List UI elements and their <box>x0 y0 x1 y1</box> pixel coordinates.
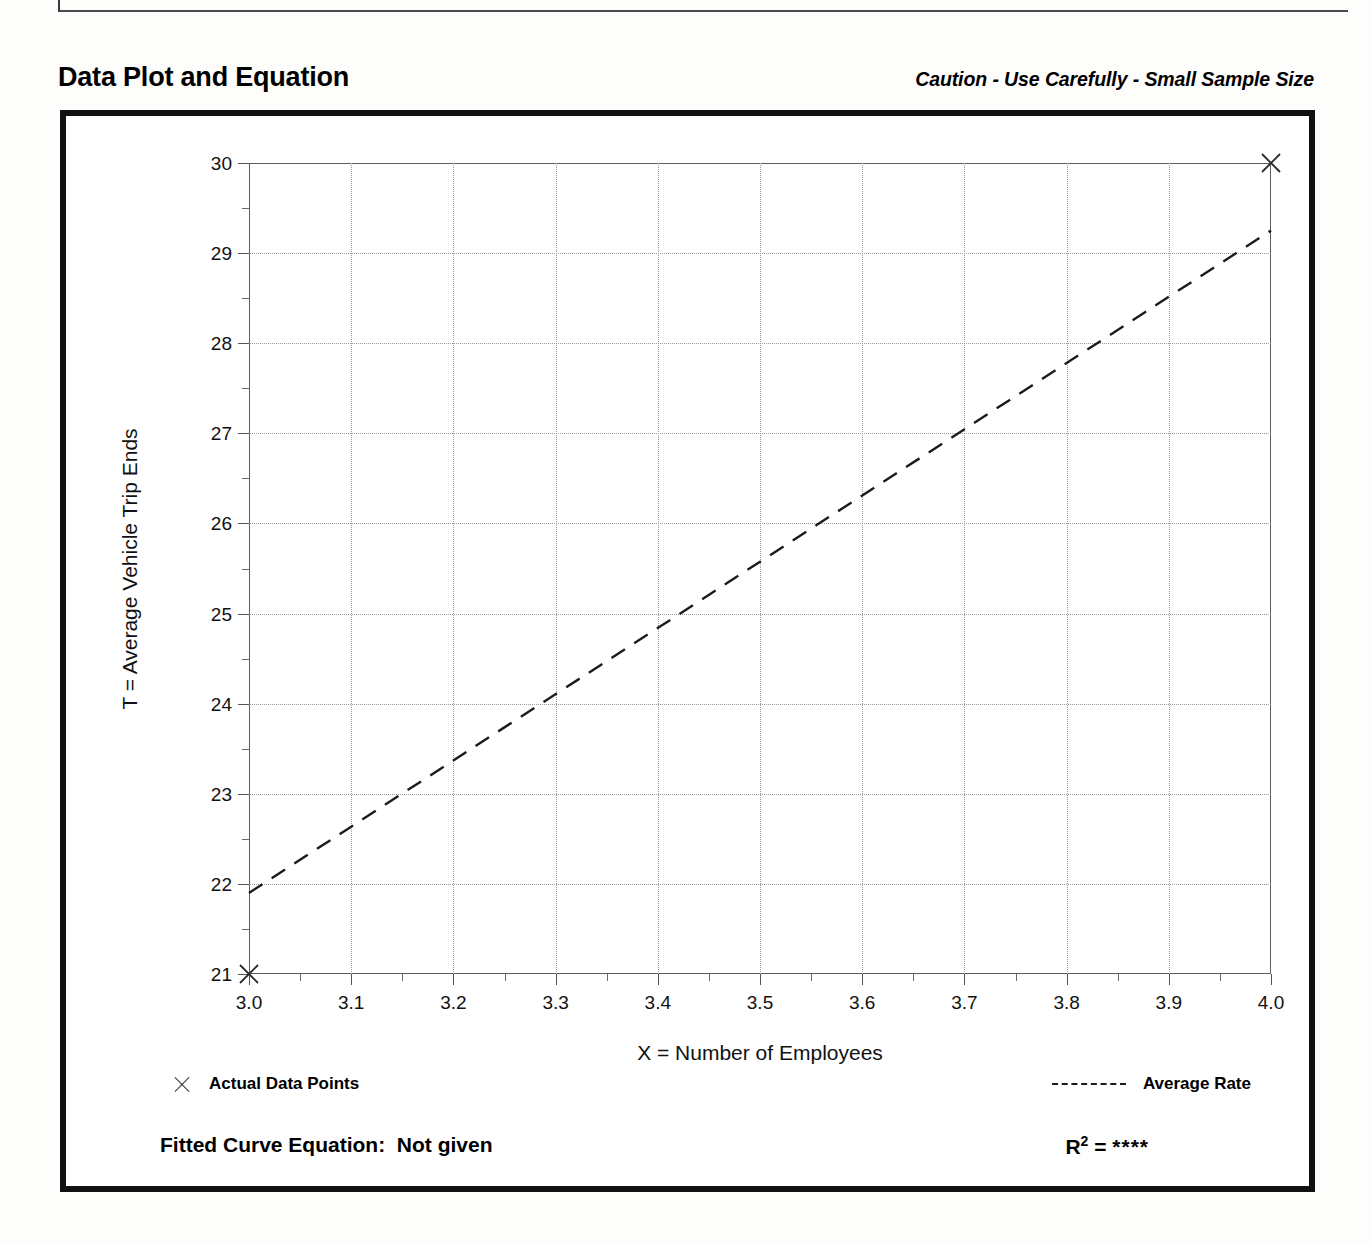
r-squared-exponent: 2 <box>1081 1133 1089 1149</box>
x-axis-tick <box>351 974 352 985</box>
y-axis-title-text: T = Average Vehicle Trip Ends <box>118 428 142 709</box>
x-axis-tick-label: 3.1 <box>338 993 364 1012</box>
gridline-vertical <box>556 163 557 974</box>
dashed-line-icon <box>1052 1083 1126 1085</box>
r-squared-equals: = <box>1094 1135 1106 1158</box>
y-axis-tick-label: 28 <box>211 334 232 353</box>
x-axis-tick <box>760 974 761 985</box>
header: Data Plot and Equation Caution - Use Car… <box>58 62 1314 102</box>
legend: Actual Data Points Average Rate <box>66 1074 1309 1112</box>
x-axis-tick <box>1169 974 1170 985</box>
y-axis-tick <box>238 794 249 795</box>
y-axis-tick <box>238 163 249 164</box>
y-axis-minor-tick <box>242 478 249 479</box>
x-axis-tick-label: 3.7 <box>951 993 977 1012</box>
x-axis-tick-label: 3.2 <box>440 993 466 1012</box>
x-axis-minor-tick <box>1016 974 1017 981</box>
x-axis-tick <box>453 974 454 985</box>
caution-note: Caution - Use Carefully - Small Sample S… <box>915 68 1314 91</box>
y-axis-title: T = Average Vehicle Trip Ends <box>115 163 145 974</box>
x-axis-tick <box>1271 974 1272 985</box>
x-axis-tick <box>249 974 250 985</box>
gridline-vertical <box>964 163 965 974</box>
x-axis-minor-tick <box>1118 974 1119 981</box>
equation-row: Fitted Curve Equation: Not given R2 = **… <box>66 1133 1309 1173</box>
gridline-vertical <box>760 163 761 974</box>
x-axis-tick <box>556 974 557 985</box>
x-axis-tick-label: 3.9 <box>1156 993 1182 1012</box>
x-axis-minor-tick <box>709 974 710 981</box>
x-axis-tick-label: 3.8 <box>1053 993 1079 1012</box>
y-axis-minor-tick <box>242 388 249 389</box>
gridline-vertical <box>1169 163 1170 974</box>
gridline-vertical <box>862 163 863 974</box>
y-axis-minor-tick <box>242 749 249 750</box>
y-axis-tick-label: 22 <box>211 874 232 893</box>
r-squared-value: R2 = **** <box>1065 1133 1149 1159</box>
y-axis-minor-tick <box>242 208 249 209</box>
plot-area: 212223242526272829303.03.13.23.33.43.53.… <box>249 163 1271 974</box>
y-axis-tick-label: 25 <box>211 604 232 623</box>
x-axis-tick-label: 3.3 <box>542 993 568 1012</box>
x-axis-tick <box>964 974 965 985</box>
gridline-vertical <box>658 163 659 974</box>
x-axis-tick <box>862 974 863 985</box>
y-axis-minor-tick <box>242 659 249 660</box>
y-axis-minor-tick <box>242 839 249 840</box>
fitted-curve-equation: Fitted Curve Equation: Not given <box>160 1133 493 1157</box>
x-marker-icon <box>172 1074 192 1094</box>
x-axis-minor-tick <box>300 974 301 981</box>
x-axis-tick-label: 4.0 <box>1258 993 1284 1012</box>
x-axis-tick-label: 3.0 <box>236 993 262 1012</box>
x-axis-tick-label: 3.6 <box>849 993 875 1012</box>
chart-panel: T = Average Vehicle Trip Ends 2122232425… <box>60 110 1315 1192</box>
y-axis-minor-tick <box>242 298 249 299</box>
x-axis-tick <box>1067 974 1068 985</box>
y-axis-tick <box>238 253 249 254</box>
y-axis-tick-label: 27 <box>211 424 232 443</box>
y-axis-tick <box>238 614 249 615</box>
y-axis-tick-label: 23 <box>211 784 232 803</box>
gridline-vertical <box>351 163 352 974</box>
x-axis-tick-label: 3.5 <box>747 993 773 1012</box>
fitted-curve-equation-label: Fitted Curve Equation: <box>160 1133 385 1156</box>
scan-artifact-edge <box>58 0 1348 12</box>
x-axis-title: X = Number of Employees <box>249 1041 1271 1065</box>
y-axis-tick-label: 29 <box>211 244 232 263</box>
gridline-vertical <box>1067 163 1068 974</box>
legend-label-average-rate: Average Rate <box>1143 1074 1251 1094</box>
x-axis-minor-tick <box>811 974 812 981</box>
r-squared-symbol: R <box>1065 1135 1080 1158</box>
fitted-curve-equation-value: Not given <box>397 1133 493 1156</box>
y-axis-minor-tick <box>242 569 249 570</box>
x-axis-tick-label: 3.4 <box>645 993 671 1012</box>
y-axis-tick-label: 30 <box>211 154 232 173</box>
x-axis-tick <box>658 974 659 985</box>
x-axis-minor-tick <box>402 974 403 981</box>
legend-item-data-points: Actual Data Points <box>172 1074 359 1094</box>
legend-label-data-points: Actual Data Points <box>209 1074 359 1094</box>
legend-item-average-rate: Average Rate <box>1052 1074 1251 1094</box>
page-root: Data Plot and Equation Caution - Use Car… <box>0 0 1371 1245</box>
x-axis-minor-tick <box>1220 974 1221 981</box>
y-axis-tick <box>238 343 249 344</box>
x-axis-minor-tick <box>913 974 914 981</box>
x-axis-minor-tick <box>505 974 506 981</box>
y-axis-tick <box>238 433 249 434</box>
y-axis-tick <box>238 974 249 975</box>
x-axis-minor-tick <box>607 974 608 981</box>
gridline-vertical <box>453 163 454 974</box>
r-squared-result: **** <box>1112 1135 1149 1158</box>
y-axis-tick <box>238 704 249 705</box>
y-axis-tick <box>238 884 249 885</box>
y-axis-tick-label: 26 <box>211 514 232 533</box>
page-title: Data Plot and Equation <box>58 62 349 93</box>
y-axis-tick-label: 24 <box>211 694 232 713</box>
y-axis-minor-tick <box>242 929 249 930</box>
y-axis-tick <box>238 523 249 524</box>
y-axis-tick-label: 21 <box>211 965 232 984</box>
